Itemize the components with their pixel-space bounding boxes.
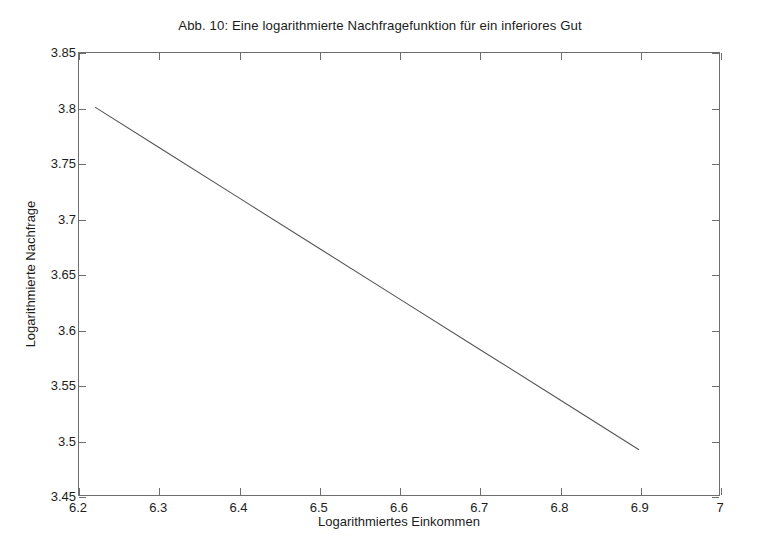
x-tick-mark xyxy=(320,488,321,495)
y-tick-mark-right xyxy=(712,53,719,54)
y-tick-mark-right xyxy=(712,442,719,443)
x-tick-mark xyxy=(400,488,401,495)
y-tick-mark-right xyxy=(712,275,719,276)
y-tick-mark-right xyxy=(712,386,719,387)
y-tick-label: 3.75 xyxy=(51,156,76,171)
y-tick-mark xyxy=(79,497,86,498)
x-tick-label: 6.6 xyxy=(390,500,408,515)
x-tick-mark-top xyxy=(240,53,241,60)
x-tick-mark xyxy=(79,488,80,495)
x-tick-label: 6.9 xyxy=(631,500,649,515)
x-tick-mark-top xyxy=(400,53,401,60)
chart-title: Abb. 10: Eine logarithmierte Nachfragefu… xyxy=(0,18,760,33)
y-tick-mark-right xyxy=(712,220,719,221)
y-tick-mark xyxy=(79,386,86,387)
y-tick-mark xyxy=(79,331,86,332)
y-tick-label: 3.8 xyxy=(58,100,76,115)
x-tick-mark-top xyxy=(641,53,642,60)
x-tick-label: 6.4 xyxy=(229,500,247,515)
x-tick-mark-top xyxy=(159,53,160,60)
x-tick-mark xyxy=(480,488,481,495)
y-tick-label: 3.6 xyxy=(58,322,76,337)
chart-figure: Abb. 10: Eine logarithmierte Nachfragefu… xyxy=(0,0,760,556)
x-tick-mark-top xyxy=(721,53,722,60)
x-tick-mark xyxy=(641,488,642,495)
x-tick-label: 6.5 xyxy=(310,500,328,515)
y-tick-label: 3.85 xyxy=(51,45,76,60)
y-tick-mark-right xyxy=(712,331,719,332)
y-tick-mark xyxy=(79,109,86,110)
x-axis-label: Logarithmiertes Einkommen xyxy=(78,514,720,529)
y-tick-mark-right xyxy=(712,497,719,498)
y-tick-label: 3.7 xyxy=(58,211,76,226)
x-tick-label: 6.3 xyxy=(149,500,167,515)
y-tick-mark xyxy=(79,442,86,443)
x-tick-label: 6.2 xyxy=(69,500,87,515)
y-axis-label: Logarithmierte Nachfrage xyxy=(23,52,41,496)
y-tick-label: 3.65 xyxy=(51,267,76,282)
x-tick-mark xyxy=(240,488,241,495)
y-tick-mark xyxy=(79,53,86,54)
x-tick-label: 6.7 xyxy=(470,500,488,515)
data-line-series xyxy=(79,53,719,495)
x-tick-mark-top xyxy=(480,53,481,60)
demand-function-line xyxy=(95,107,639,450)
x-tick-label: 6.8 xyxy=(550,500,568,515)
x-tick-mark-top xyxy=(561,53,562,60)
y-tick-mark xyxy=(79,275,86,276)
y-tick-mark-right xyxy=(712,164,719,165)
plot-area xyxy=(78,52,720,496)
y-tick-mark xyxy=(79,220,86,221)
y-tick-mark xyxy=(79,164,86,165)
y-tick-label: 3.5 xyxy=(58,433,76,448)
x-tick-mark xyxy=(721,488,722,495)
x-tick-mark-top xyxy=(79,53,80,60)
x-tick-mark xyxy=(561,488,562,495)
y-tick-label: 3.55 xyxy=(51,378,76,393)
x-tick-label: 7 xyxy=(716,500,723,515)
x-tick-mark-top xyxy=(320,53,321,60)
y-tick-mark-right xyxy=(712,109,719,110)
x-tick-mark xyxy=(159,488,160,495)
